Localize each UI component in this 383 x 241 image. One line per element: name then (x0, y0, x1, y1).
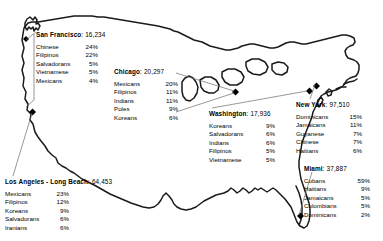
callout-new-york: New York: 97,510 Dominicans 15% Jamaican… (296, 101, 362, 155)
table-row: Dominicans 15% (296, 113, 362, 121)
group-value: 22% (78, 51, 98, 59)
group-table-los-angeles-long-beach: Mexicans 23% Filipinos 12% Koreans 9% Sa… (5, 190, 69, 232)
group-label: Filipinos (209, 147, 255, 155)
table-row: Salvadorans 5% (36, 60, 98, 68)
group-value: 6% (255, 130, 275, 138)
table-row: Jamaicans 11% (296, 121, 362, 129)
group-value: 5% (255, 147, 275, 155)
group-label: Haitians (304, 185, 348, 193)
city-total: 17,936 (250, 110, 270, 117)
table-row: Filipinos 5% (209, 147, 275, 155)
table-row: Jamaicans 5% (304, 194, 370, 202)
group-value: 6% (255, 139, 275, 147)
callout-los-angeles-long-beach: Los Angeles - Long Beach: 64,453 Mexican… (5, 178, 112, 232)
callout-san-francisco: San Francisco: 16,234 Chinese 24% Filipi… (36, 31, 106, 85)
marker-san-francisco (23, 36, 29, 42)
group-label: Dominicans (304, 211, 348, 219)
table-row: Mexicans 20% (114, 80, 178, 88)
callout-title-los-angeles-long-beach: Los Angeles - Long Beach: 64,453 (5, 178, 112, 185)
group-label: Chinese (36, 43, 78, 51)
group-value: 6% (156, 114, 178, 122)
group-value: 4% (78, 77, 98, 85)
group-label: Koreans (5, 207, 51, 215)
table-row: Chinese 7% (296, 138, 362, 146)
group-label: Vietnamese (209, 156, 255, 164)
table-row: Vietnamese 5% (209, 156, 275, 164)
table-row: Mexicans 23% (5, 190, 69, 198)
city-name: Miami (304, 165, 323, 172)
table-row: Filipinos 22% (36, 51, 98, 59)
city-name: Washington (209, 110, 247, 117)
group-label: Filipinos (114, 88, 156, 96)
group-value: 5% (348, 202, 370, 210)
group-value: 9% (51, 207, 69, 215)
group-value: 12% (51, 198, 69, 206)
leader-los-angeles (13, 113, 32, 176)
group-value: 15% (340, 113, 362, 121)
table-row: Haitians 9% (304, 185, 370, 193)
city-total: 64,453 (92, 178, 112, 185)
group-label: Dominicans (296, 113, 340, 121)
table-row: Poles 9% (114, 105, 178, 113)
table-row: Koreans 6% (114, 114, 178, 122)
group-value: 7% (340, 130, 362, 138)
group-value: 9% (156, 105, 178, 113)
table-row: Indians 6% (209, 139, 275, 147)
group-value: 2% (348, 211, 370, 219)
group-label: Cubans (304, 177, 348, 185)
group-value: 9% (348, 185, 370, 193)
callout-title-miami: Miami: 37,887 (304, 165, 370, 172)
city-name: Chicago (114, 68, 140, 75)
group-label: Mexicans (114, 80, 156, 88)
group-table-washington: Koreans 9% Salvadorans 6% Indians 6% Fil… (209, 122, 275, 164)
table-row: Haitians 6% (296, 147, 362, 155)
marker-los-angeles (29, 109, 36, 116)
leader-washington (212, 91, 307, 108)
city-total: 20,297 (144, 68, 164, 75)
group-table-chicago: Mexicans 20% Filipinos 11% Indians 11% P… (114, 80, 178, 122)
group-value: 9% (255, 122, 275, 130)
group-value: 6% (340, 147, 362, 155)
marker-miami (297, 213, 304, 220)
city-name: New York (296, 101, 326, 108)
table-row: Koreans 9% (5, 207, 69, 215)
group-label: Mexicans (36, 77, 78, 85)
group-value: 11% (156, 97, 178, 105)
city-total: 37,887 (327, 165, 347, 172)
table-row: Filipinos 12% (5, 198, 69, 206)
group-label: Jamaicans (304, 194, 348, 202)
group-value: 23% (51, 190, 69, 198)
table-row: Guyanese 7% (296, 130, 362, 138)
group-label: Salvadorans (36, 60, 78, 68)
callout-washington: Washington: 17,936 Koreans 9% Salvadoran… (209, 110, 275, 164)
table-row: Chinese 24% (36, 43, 98, 51)
group-label: Vietnamese (36, 68, 78, 76)
group-label: Indians (114, 97, 156, 105)
group-value: 7% (340, 138, 362, 146)
table-row: Koreans 9% (209, 122, 275, 130)
callout-title-san-francisco: San Francisco: 16,234 (36, 31, 106, 38)
callout-miami: Miami: 37,887 Cubans 59% Haitians 9% Jam… (304, 165, 370, 219)
group-value: 5% (255, 156, 275, 164)
group-label: Indians (209, 139, 255, 147)
marker-chicago (232, 89, 239, 96)
leader-san-francisco (26, 32, 36, 40)
group-label: Chinese (296, 138, 340, 146)
callout-chicago: Chicago: 20,297 Mexicans 20% Filipinos 1… (114, 68, 178, 122)
table-row: Colombians 5% (304, 202, 370, 210)
group-label: Iranians (5, 224, 51, 232)
city-name: San Francisco (36, 31, 81, 38)
city-total: 97,510 (329, 101, 349, 108)
callout-title-washington: Washington: 17,936 (209, 110, 275, 117)
group-label: Jamaicans (296, 121, 340, 129)
group-value: 24% (78, 43, 98, 51)
group-value: 11% (340, 121, 362, 129)
table-row: Iranians 6% (5, 224, 69, 232)
group-value: 59% (348, 177, 370, 185)
group-label: Filipinos (36, 51, 78, 59)
group-value: 5% (78, 68, 98, 76)
group-value: 5% (348, 194, 370, 202)
group-label: Colombians (304, 202, 348, 210)
city-name: Los Angeles - Long Beach (5, 178, 88, 185)
group-label: Mexicans (5, 190, 51, 198)
